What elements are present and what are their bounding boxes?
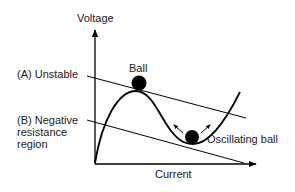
oscillation-arrow-right-icon — [201, 125, 210, 133]
oscillation-arrow-left-icon — [174, 125, 183, 133]
y-axis-label: Voltage — [77, 12, 114, 25]
label-b-line3: region — [17, 138, 48, 151]
iv-curve — [95, 91, 240, 163]
ball-icon — [132, 76, 147, 91]
diagram-canvas — [0, 0, 295, 192]
label-oscillating-ball: Oscillating ball — [207, 133, 278, 146]
x-axis-label: Current — [155, 168, 192, 181]
label-ball: Ball — [129, 62, 147, 75]
oscillating-ball-icon — [185, 130, 199, 144]
label-a-unstable: (A) Unstable — [17, 68, 78, 81]
